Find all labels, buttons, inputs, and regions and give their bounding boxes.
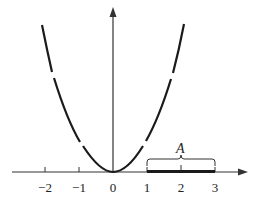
tick-label-1: 1 [144, 180, 151, 195]
x-axis-arrow-icon [238, 169, 248, 176]
set-label-A: A [175, 141, 185, 156]
y-axis-arrow-icon [110, 7, 117, 17]
tick-label-neg2: −2 [38, 180, 52, 195]
interval-brace [147, 155, 215, 166]
tick-label-neg1: −1 [72, 180, 86, 195]
tick-label-0: 0 [110, 180, 117, 195]
parabola-diagram: A −2 −1 0 1 2 3 [0, 0, 263, 202]
tick-label-2: 2 [178, 180, 185, 195]
tick-label-3: 3 [212, 180, 219, 195]
